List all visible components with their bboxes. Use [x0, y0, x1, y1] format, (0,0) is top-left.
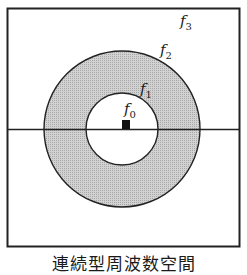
origin-square-f0	[122, 120, 130, 129]
figure-caption: 連続型周波数空間	[0, 250, 247, 275]
